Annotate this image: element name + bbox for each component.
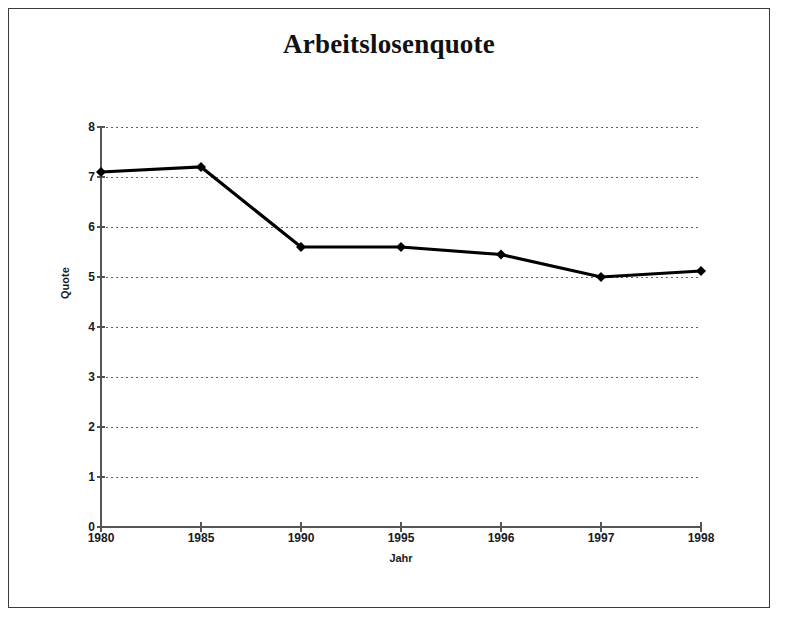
chart-frame: Arbeitslosenquote 012345678 Quote 198019… [8, 8, 770, 608]
x-axis-tick-labels: 1980198519901995199619971998 [101, 531, 701, 551]
y-axis-tick-8: 8 [73, 120, 95, 134]
x-axis-tick-1998: 1998 [688, 531, 715, 545]
data-markers [96, 162, 706, 282]
line-chart-svg [101, 127, 701, 527]
chart-title: Arbeitslosenquote [9, 29, 769, 60]
x-axis-tick-1980: 1980 [88, 531, 115, 545]
y-axis-tick-labels: 012345678 [65, 127, 95, 527]
x-axis-tick-1996: 1996 [488, 531, 515, 545]
y-axis-tick-4: 4 [73, 320, 95, 334]
y-axis-tick-1: 1 [73, 470, 95, 484]
axis-ticks [97, 127, 701, 532]
plot-area [101, 127, 701, 527]
y-axis-tick-6: 6 [73, 220, 95, 234]
y-axis-label: Quote [59, 267, 71, 299]
x-axis-tick-1995: 1995 [388, 531, 415, 545]
y-axis-tick-5: 5 [73, 270, 95, 284]
x-axis-label: Jahr [101, 552, 701, 564]
data-line [101, 167, 701, 277]
gridlines [101, 127, 701, 477]
y-axis-tick-7: 7 [73, 170, 95, 184]
x-axis-tick-1985: 1985 [188, 531, 215, 545]
y-axis-tick-2: 2 [73, 420, 95, 434]
y-axis-tick-3: 3 [73, 370, 95, 384]
x-axis-tick-1990: 1990 [288, 531, 315, 545]
x-axis-tick-1997: 1997 [588, 531, 615, 545]
